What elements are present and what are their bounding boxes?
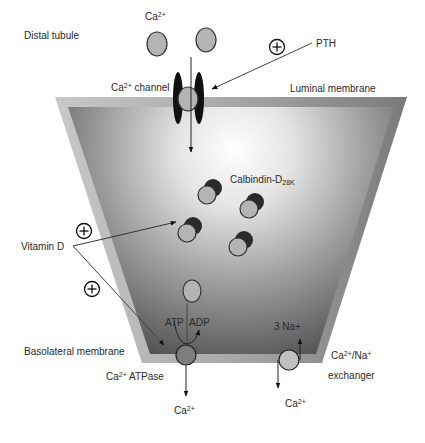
stimulation-plus-vitd-upper-icon [77,224,92,239]
label-vitamin-d: Vitamin D [21,242,64,252]
label-exchanger-line2: exchanger [328,371,375,381]
label-pth: PTH [316,39,336,49]
label-ca-atpase: Ca2+ ATPase [106,372,164,382]
label-ca-channel: Ca2+ channel [111,83,170,93]
stimulation-plus-vitd-lower-icon [85,282,100,297]
label-adp: ADP [189,318,210,328]
label-ca-top: Ca2+ [145,12,166,22]
label-exchanger-line1: Ca2+/Na+ [331,351,371,361]
label-ca-bottom-right: Ca2+ [285,399,306,409]
calcium-ion-in-channel [178,87,198,111]
label-luminal-membrane: Luminal membrane [290,84,376,94]
ca-atpase-pump [176,345,196,365]
cell-cytoplasm [68,107,394,354]
calcium-ion [183,280,201,302]
stimulation-plus-pth-icon [270,40,285,55]
label-ca-bottom-left: Ca2+ [174,406,195,416]
label-three-na: 3 Na+ [274,322,301,332]
label-calbindin: Calbindin-D28K [230,175,295,185]
label-distal-tubule: Distal tubule [24,31,79,41]
label-basolateral-membrane: Basolateral membrane [24,347,125,357]
calcium-ion [147,32,167,56]
label-atp: ATP [165,318,184,328]
ca-na-exchanger [279,350,299,370]
calcium-ion [196,28,216,52]
